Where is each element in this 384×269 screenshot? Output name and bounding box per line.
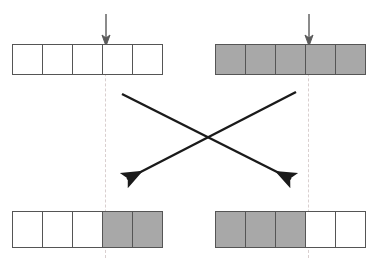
child-2-cell-4 xyxy=(335,211,366,248)
parent-2-cell-1 xyxy=(245,44,276,75)
child-2-cell-2 xyxy=(275,211,306,248)
child-1-cell-2 xyxy=(72,211,103,248)
parent-1-cell-3 xyxy=(102,44,133,75)
parent-2-cell-2 xyxy=(275,44,306,75)
child-1-chromosome xyxy=(12,211,163,248)
parent-1-chromosome xyxy=(12,44,163,75)
parent-2-chromosome xyxy=(215,44,366,75)
crossover-diagram xyxy=(0,0,384,269)
parent-1-cell-4 xyxy=(132,44,163,75)
arrow-parent1-to-child2 xyxy=(122,94,291,179)
child-1-cell-0 xyxy=(12,211,43,248)
child-2-chromosome xyxy=(215,211,366,248)
child-2-cell-0 xyxy=(215,211,246,248)
child-1-cell-1 xyxy=(42,211,73,248)
parent-1-cell-0 xyxy=(12,44,43,75)
child-1-cell-4 xyxy=(132,211,163,248)
parent-2-cell-4 xyxy=(335,44,366,75)
child-2-cell-1 xyxy=(245,211,276,248)
cut-marker-arrow-parent-2 xyxy=(300,13,318,47)
parent-2-cell-3 xyxy=(305,44,336,75)
parent-2-cell-0 xyxy=(215,44,246,75)
child-2-cell-3 xyxy=(305,211,336,248)
arrow-parent2-to-child1 xyxy=(127,92,296,179)
child-1-cell-3 xyxy=(102,211,133,248)
parent-1-cell-2 xyxy=(72,44,103,75)
parent-1-cell-1 xyxy=(42,44,73,75)
cut-marker-arrow-parent-1 xyxy=(97,13,115,47)
